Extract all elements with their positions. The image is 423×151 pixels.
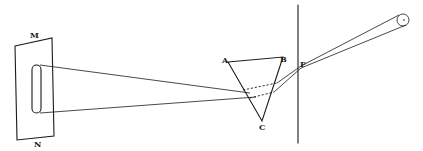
label-n: N — [34, 139, 41, 149]
prism-diagram: M N A B C F — [0, 0, 423, 151]
label-f: F — [300, 59, 306, 69]
diagram-canvas: M N A B C F — [0, 0, 423, 151]
prism-abc — [228, 57, 283, 121]
label-c: C — [259, 122, 265, 132]
spectrum-slot — [32, 65, 41, 113]
label-m: M — [30, 30, 39, 40]
label-b: B — [280, 54, 287, 64]
ray-upper-to-screen — [40, 65, 250, 93]
screen-mn — [15, 38, 54, 140]
ray-f-to-prism-upper — [277, 66, 301, 83]
light-source-dot — [403, 19, 405, 21]
beam-upper-edge — [301, 15, 399, 66]
label-a: A — [221, 55, 229, 65]
ray-lower-to-screen — [40, 97, 256, 113]
light-source-circle — [397, 14, 409, 26]
beam-lower-edge — [301, 25, 406, 68]
ray-inside-prism-upper — [243, 83, 277, 90]
